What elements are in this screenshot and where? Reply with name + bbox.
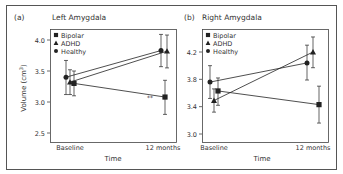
panel-a-title: Left Amygdala — [52, 13, 106, 22]
data-point-healthy-circle-icon — [64, 75, 69, 80]
legend-marker-healthy-circle-icon — [206, 49, 210, 53]
legend-label-adhd: ADHD — [61, 40, 80, 48]
data-point-bipolar-square-icon — [162, 94, 167, 99]
x-tick-label: 12 months — [296, 144, 331, 152]
legend-marker-bipolar-square-icon — [54, 33, 58, 37]
y-tick-label: 4.0 — [35, 37, 45, 45]
panel-b-label: (b) — [184, 13, 195, 22]
y-tick-label: 3.5 — [35, 68, 45, 76]
legend-label-bipolar: Bipolar — [61, 32, 84, 40]
panel-a-ylabel: Volume (cm3) — [18, 64, 28, 112]
legend-label-healthy: Healthy — [213, 48, 238, 56]
panel-a-label: (a) — [14, 13, 25, 22]
data-point-bipolar-square-icon — [215, 88, 220, 93]
legend-label-bipolar: Bipolar — [213, 32, 236, 40]
amygdala-volume-figure: (a) Left Amygdala 4.03.53.02.5Baseline12… — [0, 0, 343, 174]
data-point-healthy-circle-icon — [305, 60, 310, 65]
x-tick-label: Baseline — [56, 144, 84, 152]
y-tick-label: 3.4 — [187, 103, 197, 111]
data-point-healthy-circle-icon — [208, 80, 213, 85]
data-point-healthy-circle-icon — [159, 48, 164, 53]
y-tick-label: 3.8 — [187, 76, 197, 84]
y-tick-label: 3.0 — [187, 131, 197, 139]
data-point-bipolar-square-icon — [316, 102, 321, 107]
y-tick-label: 4.2 — [187, 49, 197, 57]
legend-marker-bipolar-square-icon — [206, 33, 210, 37]
x-tick-label: 12 months — [146, 144, 181, 152]
y-tick-label: 2.5 — [35, 130, 45, 138]
significance-annotation: ** — [147, 94, 153, 101]
x-tick-label: Baseline — [200, 144, 228, 152]
panel-a-xlabel: Time — [103, 155, 121, 163]
legend-marker-healthy-circle-icon — [54, 49, 58, 53]
legend-label-adhd: ADHD — [213, 40, 232, 48]
panel-b-xlabel: Time — [252, 155, 270, 163]
y-tick-label: 3.0 — [35, 99, 45, 107]
legend-label-healthy: Healthy — [61, 48, 86, 56]
panel-b-title: Right Amygdala — [202, 13, 262, 22]
